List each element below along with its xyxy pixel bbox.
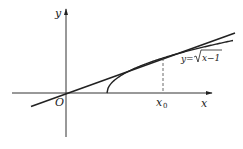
svg-text:0: 0 <box>163 102 167 110</box>
origin-label: O <box>55 96 64 109</box>
svg-text:y=: y= <box>180 54 194 64</box>
sqrt-curve <box>107 41 233 94</box>
y-axis-label: y <box>54 7 62 20</box>
x-axis-label: x <box>201 97 208 110</box>
diagram-canvas: y x O x 0 y= x−1 <box>0 0 243 149</box>
svg-text:x: x <box>156 96 163 109</box>
svg-text:x−1: x−1 <box>202 53 220 63</box>
curve-equation-label: y= x−1 <box>180 50 222 64</box>
x0-label: x 0 <box>156 96 167 110</box>
